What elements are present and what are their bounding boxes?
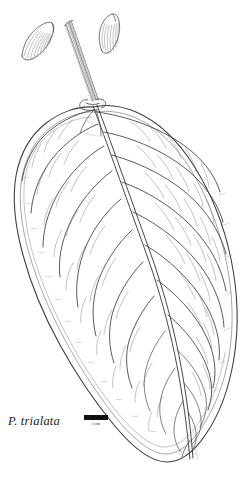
scale-bar — [84, 415, 108, 420]
peduncle-group — [65, 21, 99, 102]
leaf-blade — [14, 105, 237, 462]
bud-right — [99, 14, 119, 54]
scale-bar-label: 1 cm — [81, 421, 111, 426]
tertiary-reticulation-right — [131, 122, 220, 396]
illustration-plate: P. trialata 1 cm — [0, 0, 249, 497]
basal-veins — [80, 110, 101, 136]
scale-bar-group: 1 cm — [81, 415, 111, 426]
secondary-veins-right — [97, 112, 226, 455]
bud-left — [22, 22, 54, 60]
